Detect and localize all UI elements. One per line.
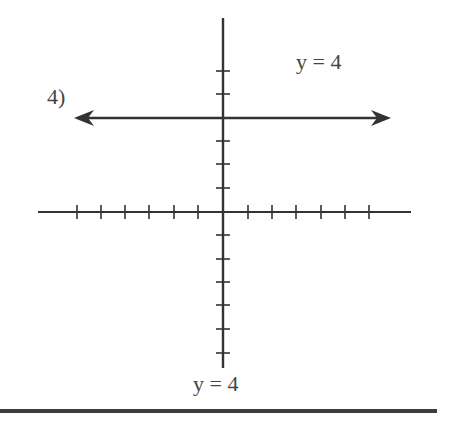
divider-rule xyxy=(0,409,437,413)
line-y-equals-4 xyxy=(74,110,391,126)
equation-label-bottom: y = 4 xyxy=(193,373,238,395)
equation-label-top: y = 4 xyxy=(296,51,341,73)
problem-number: 4) xyxy=(47,86,65,108)
coordinate-plane xyxy=(0,0,452,427)
